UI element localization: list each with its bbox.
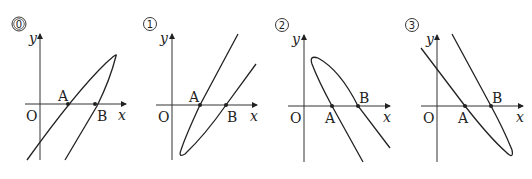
option-number: 2 (279, 20, 285, 31)
panel-3: 3 y x O A B (406, 19, 525, 163)
x-axis-label: x (250, 108, 258, 124)
y-axis-label: y (425, 31, 435, 47)
point-a-label: A (324, 110, 336, 126)
option-number: 1 (147, 19, 153, 30)
y-axis-label: y (28, 30, 38, 46)
origin-label: O (26, 108, 37, 124)
origin-label: O (423, 110, 434, 126)
point-b-label: B (227, 109, 237, 125)
point-b-label: B (97, 108, 107, 124)
x-axis-label: x (118, 107, 126, 123)
parabola-curve (311, 57, 390, 162)
panel-1: 1 y x O A B (144, 18, 259, 161)
x-axis-label: x (383, 109, 391, 125)
option-number: 3 (409, 20, 415, 31)
point-a-label: A (57, 88, 69, 104)
graph-options-figure: 0 y x O A B 1 y x O A B 2 y x O (0, 0, 532, 179)
point-a-label: A (188, 89, 200, 105)
point-b-label: B (492, 90, 502, 106)
y-axis-label: y (291, 31, 301, 47)
point-b-label: B (359, 90, 369, 106)
point-b (224, 103, 228, 107)
y-axis-label: y (159, 30, 169, 46)
origin-label: O (158, 109, 169, 125)
panel-2: 2 y x O A B (276, 19, 392, 163)
option-number: 0 (16, 19, 22, 30)
point-b (93, 102, 97, 106)
x-axis-label: x (516, 109, 524, 125)
origin-label: O (290, 110, 301, 126)
panel-0: 0 y x O A B (12, 17, 126, 160)
point-a-label: A (457, 110, 469, 126)
point-a (463, 104, 467, 108)
point-a (330, 104, 334, 108)
